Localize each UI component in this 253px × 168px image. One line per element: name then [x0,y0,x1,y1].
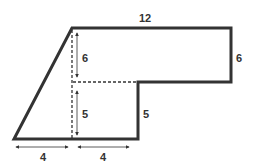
label-bottom-right-width: 4 [100,151,107,163]
label-lower-inner-height: 5 [82,108,88,120]
label-step-height: 5 [143,108,149,120]
label-right-height: 6 [236,52,242,64]
label-bottom-left-width: 4 [40,151,47,163]
label-top-width: 12 [139,12,151,24]
shape-outline [14,28,231,139]
geometry-diagram: 12 6 6 5 5 4 4 [0,0,253,168]
label-upper-inner-height: 6 [82,52,88,64]
